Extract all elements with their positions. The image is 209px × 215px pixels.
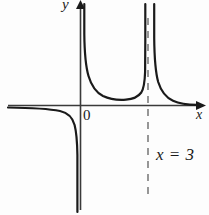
curve-branch-left <box>8 108 77 213</box>
y-axis-label: y <box>62 0 69 12</box>
function-graph-figure: y x 0 x = 3 <box>0 0 209 215</box>
asymptote-label: x = 3 <box>156 146 195 163</box>
plot-canvas <box>0 0 209 215</box>
origin-label: 0 <box>83 108 91 123</box>
x-axis-label: x <box>196 108 202 122</box>
curve-branch-middle <box>84 4 145 100</box>
curve-branch-right <box>154 4 197 105</box>
